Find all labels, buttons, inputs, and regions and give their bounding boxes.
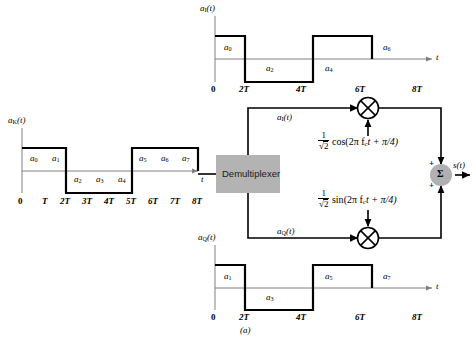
waveform-ak-tick-6T: 6T bbox=[148, 196, 158, 206]
waveform-aq-symbol-a3: a3 bbox=[266, 292, 274, 302]
waveform-aq-tick-2T: 2T bbox=[239, 312, 249, 322]
waveform-ak-tick-7T: 7T bbox=[170, 196, 180, 206]
waveform-aq-symbol-a7: a7 bbox=[383, 271, 391, 281]
waveform-ai-tick-0: 0 bbox=[211, 84, 216, 94]
waveform-ak-symbol-a4: a4 bbox=[118, 174, 126, 184]
carrier-q-arg: (2π f bbox=[344, 194, 363, 205]
waveform-aq-tick-4T: 4T bbox=[296, 312, 306, 322]
waveform-aq-tick-8T: 8T bbox=[412, 312, 422, 322]
carrier-q-fraction: 1 √2 bbox=[318, 189, 329, 210]
waveform-aq-symbol-a5: a5 bbox=[325, 271, 333, 281]
carrier-i-arg: (2π f bbox=[345, 136, 364, 147]
waveform-ai-symbol-a4: a4 bbox=[325, 63, 333, 73]
waveform-ai-tick-4T: 4T bbox=[296, 84, 306, 94]
waveform-ak-tick-3T: 3T bbox=[82, 196, 92, 206]
waveform-aq-axis-label: aQ(t) bbox=[198, 232, 215, 242]
waveform-aq bbox=[215, 245, 432, 310]
summer-sigma-glyph: Σ bbox=[437, 168, 444, 179]
carrier-q-function: sin bbox=[332, 194, 344, 205]
waveform-ak-time-label: t bbox=[201, 174, 204, 184]
waveform-ai-symbol-a0: a0 bbox=[224, 42, 232, 52]
waveform-ak-tick-2T: 2T bbox=[60, 196, 70, 206]
carrier-q-equation: 1 √2 sin(2π fct + π/4) bbox=[318, 190, 397, 211]
multiplier-i bbox=[358, 98, 379, 119]
waveform-aq-symbol-a1: a1 bbox=[224, 271, 232, 281]
waveform-aq-tick-0: 0 bbox=[211, 312, 216, 322]
waveform-aq-tick-6T: 6T bbox=[355, 312, 365, 322]
waveform-aq-time-label: t bbox=[436, 281, 439, 291]
demultiplexer-label: Demultiplexer bbox=[222, 168, 280, 179]
waveform-ak-symbol-a5: a5 bbox=[139, 153, 147, 163]
summer-plus-top: + bbox=[429, 158, 434, 168]
waveform-ai-symbol-a6: a6 bbox=[383, 42, 391, 52]
waveform-ai-tick-6T: 6T bbox=[355, 84, 365, 94]
waveform-ak-symbol-a2: a2 bbox=[74, 174, 82, 184]
multiplier-q bbox=[358, 228, 379, 249]
waveform-ak-axis-label: aK(t) bbox=[8, 115, 25, 125]
waveform-ak-symbol-a6: a6 bbox=[161, 153, 169, 163]
branch-i-label: aI(t) bbox=[277, 112, 292, 122]
waveform-ai-time-label: t bbox=[436, 52, 439, 62]
output-signal-label: s(t) bbox=[453, 160, 465, 170]
waveform-ai bbox=[215, 16, 432, 82]
carrier-i-fraction: 1 √2 bbox=[318, 131, 329, 152]
waveform-ak-symbol-a3: a3 bbox=[96, 174, 104, 184]
waveform-ak-symbol-a1: a1 bbox=[52, 153, 60, 163]
waveform-ak-tick-5T: 5T bbox=[126, 196, 136, 206]
waveform-ak-tick-4T: 4T bbox=[104, 196, 114, 206]
waveform-ak bbox=[22, 128, 198, 193]
carrier-i-equation: 1 √2 cos(2π fct + π/4) bbox=[318, 132, 398, 153]
waveform-ai-tick-2T: 2T bbox=[239, 84, 249, 94]
branch-q-label: aQ(t) bbox=[277, 226, 294, 236]
waveform-ak-symbol-a7: a7 bbox=[182, 153, 190, 163]
figure-caption: (a) bbox=[240, 325, 251, 335]
carrier-i-function: cos bbox=[332, 136, 345, 147]
waveform-ai-symbol-a2: a2 bbox=[266, 63, 274, 73]
summer-plus-bottom: + bbox=[429, 180, 434, 190]
waveform-ak-symbol-a0: a0 bbox=[30, 153, 38, 163]
waveform-ak-tick-0: 0 bbox=[18, 196, 23, 206]
waveform-ai-tick-8T: 8T bbox=[412, 84, 422, 94]
waveform-ak-tick-8T: 8T bbox=[192, 196, 202, 206]
waveform-ai-axis-label: aI(t) bbox=[200, 3, 215, 13]
waveform-ak-tick-T: T bbox=[42, 196, 48, 206]
